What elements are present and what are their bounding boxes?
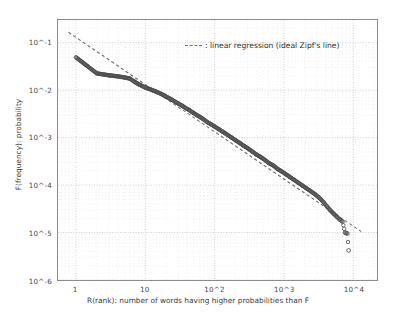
x-tick-label: 10^2 [195, 285, 235, 294]
plot-area [57, 19, 378, 281]
x-tick-label: 10 [125, 285, 165, 294]
y-axis-title: F(frequency): probability [14, 65, 23, 225]
legend: : linear regression (ideal Zipf's line) [185, 41, 340, 50]
x-tick-label: 10^4 [334, 285, 374, 294]
legend-label: : linear regression (ideal Zipf's line) [205, 41, 340, 50]
x-tick-label: 1 [55, 285, 95, 294]
y-tick-label: 10^-1 [8, 38, 52, 47]
data-points-layer [58, 20, 377, 280]
x-tick-label: 10^3 [264, 285, 304, 294]
legend-dashed-line-icon [185, 45, 202, 46]
y-tick-label: 10^-6 [8, 277, 52, 286]
y-tick-label: 10^-5 [8, 229, 52, 238]
zipf-law-chart-figure: 10^-110^-210^-310^-410^-510^-6 11010^210… [0, 0, 396, 315]
x-axis-title: R(rank): number of words having higher p… [0, 296, 396, 305]
